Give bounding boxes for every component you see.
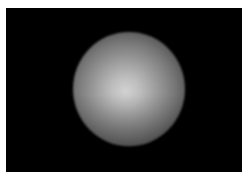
sphere-shading (73, 32, 185, 146)
black-image-frame (6, 8, 242, 172)
